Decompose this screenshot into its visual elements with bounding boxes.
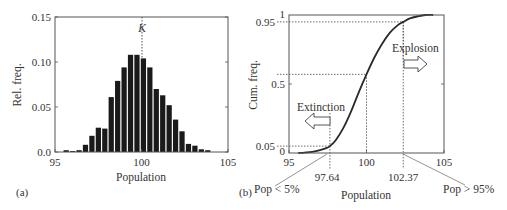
histogram-bar bbox=[83, 145, 88, 152]
cumulative-ticks: 9510010500.050.50.951 bbox=[256, 8, 453, 168]
panel-b-label: (b) bbox=[239, 186, 252, 199]
x-tick-label: 100 bbox=[133, 156, 150, 168]
cumulative-guide-lines bbox=[277, 22, 403, 169]
extinction-arrow-icon bbox=[305, 113, 330, 129]
histogram-panel: K 951001050.00.050.100.15 Population Rel… bbox=[11, 11, 237, 199]
x-tick-label: 95 bbox=[284, 156, 296, 168]
histogram-bar bbox=[141, 58, 146, 152]
histogram-bars bbox=[64, 55, 211, 152]
cumulative-x-label: Population bbox=[341, 189, 391, 202]
y-tick-label: 0.05 bbox=[256, 140, 276, 152]
y-tick-label: 1 bbox=[280, 8, 286, 20]
histogram-y-label: Rel. freq. bbox=[11, 63, 24, 106]
x-tick-label: 95 bbox=[50, 156, 62, 168]
histogram-bar bbox=[96, 128, 101, 152]
y-tick-label: 0.95 bbox=[256, 16, 276, 28]
histogram-bar bbox=[115, 81, 120, 152]
histogram-x-label: Population bbox=[116, 171, 166, 184]
histogram-ticks: 951001050.00.050.100.15 bbox=[32, 11, 237, 168]
low-threshold-value: 97.64 bbox=[315, 171, 340, 183]
low-pointer-label: Pop < 5% bbox=[254, 183, 300, 196]
histogram-bar bbox=[179, 131, 184, 152]
cumulative-panel: 9510010500.050.50.951 Extinction Explosi… bbox=[239, 8, 495, 202]
x-tick-label: 100 bbox=[358, 156, 375, 168]
y-tick-label: 0.05 bbox=[32, 101, 52, 113]
histogram-bar bbox=[167, 105, 172, 152]
x-tick-label: 105 bbox=[220, 156, 237, 168]
high-pointer-label: Pop > 95% bbox=[443, 183, 495, 196]
histogram-bar bbox=[102, 129, 107, 152]
histogram-bar bbox=[134, 55, 139, 152]
histogram-bar bbox=[160, 95, 165, 152]
high-threshold-value: 102.37 bbox=[388, 171, 419, 183]
histogram-bar bbox=[154, 89, 159, 152]
y-tick-label: 0.0 bbox=[37, 146, 51, 158]
y-tick-label: 0.10 bbox=[32, 56, 52, 68]
cumulative-curve bbox=[298, 15, 433, 153]
histogram-bar bbox=[147, 67, 152, 152]
explosion-arrow-icon bbox=[404, 56, 427, 72]
x-tick-label: 105 bbox=[436, 156, 453, 168]
cumulative-y-label: Cum. freq. bbox=[247, 60, 260, 110]
histogram-bar bbox=[121, 67, 126, 152]
histogram-bar bbox=[89, 136, 94, 152]
histogram-bar bbox=[192, 146, 197, 152]
k-label: K bbox=[137, 22, 147, 34]
histogram-bar bbox=[109, 97, 114, 152]
extinction-label: Extinction bbox=[297, 101, 345, 113]
figure: K 951001050.00.050.100.15 Population Rel… bbox=[0, 0, 507, 210]
histogram-bar bbox=[128, 55, 133, 152]
y-tick-label: 0 bbox=[280, 145, 286, 157]
y-tick-label: 0.15 bbox=[32, 11, 52, 23]
y-tick-label: 0.5 bbox=[271, 78, 285, 90]
explosion-label: Explosion bbox=[392, 42, 439, 55]
histogram-bar bbox=[173, 120, 178, 152]
histogram-bar bbox=[186, 144, 191, 152]
panel-a-label: (a) bbox=[16, 186, 29, 199]
